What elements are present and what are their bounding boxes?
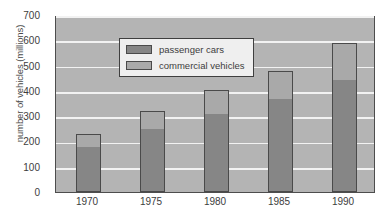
- x-axis-tick-labels: 19701975198019851990: [55, 196, 375, 212]
- bar-segment-passenger-cars: [205, 114, 228, 191]
- x-tick-label-1985: 1985: [249, 196, 309, 207]
- y-axis-tick-labels: 0100200300400500600700: [0, 16, 48, 193]
- commercial-swatch: [126, 61, 152, 70]
- bar-segment-passenger-cars: [141, 129, 164, 191]
- bar-segment-commercial-vehicles: [333, 44, 356, 80]
- bar-segment-commercial-vehicles: [141, 112, 164, 129]
- x-tick-label-1980: 1980: [185, 196, 245, 207]
- bar-1985: [268, 71, 293, 192]
- y-tick-label: 0: [0, 188, 45, 198]
- x-tick-label-1975: 1975: [121, 196, 181, 207]
- legend-label-commercial-vehicles: commercial vehicles: [159, 60, 245, 71]
- y-tick-label: 100: [0, 163, 45, 173]
- bar-segment-commercial-vehicles: [269, 72, 292, 99]
- bar-segment-commercial-vehicles: [77, 135, 100, 147]
- legend-item-passenger-cars: passenger cars: [126, 43, 245, 56]
- bar-1990: [332, 43, 357, 192]
- y-tick-label: 400: [0, 87, 45, 97]
- legend-item-commercial-vehicles: commercial vehicles: [126, 59, 245, 72]
- y-tick-label: 500: [0, 62, 45, 72]
- bar-1975: [140, 111, 165, 192]
- bar-1980: [204, 90, 229, 192]
- bar-segment-commercial-vehicles: [205, 91, 228, 115]
- bar-segment-passenger-cars: [269, 99, 292, 191]
- legend-label-passenger-cars: passenger cars: [159, 44, 224, 55]
- x-tick-label-1970: 1970: [57, 196, 117, 207]
- y-tick-label: 600: [0, 36, 45, 46]
- y-tick-label: 700: [0, 11, 45, 21]
- bar-segment-passenger-cars: [77, 147, 100, 191]
- legend: passenger cars commercial vehicles: [119, 38, 254, 77]
- passenger-swatch: [126, 45, 152, 54]
- bar-1970: [76, 134, 101, 192]
- bar-segment-passenger-cars: [333, 80, 356, 191]
- y-tick-label: 200: [0, 137, 45, 147]
- y-tick-label: 300: [0, 112, 45, 122]
- x-tick-label-1990: 1990: [313, 196, 373, 207]
- stacked-bar-chart: number of vehicles (millions) 0100200300…: [0, 0, 387, 216]
- plot-area: passenger cars commercial vehicles: [55, 16, 375, 193]
